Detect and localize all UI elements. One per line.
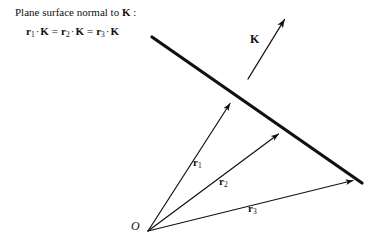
normal-vector-label-text: K [250,32,259,46]
equation-K-2: K [75,25,84,37]
vector-label-r3-subscript: 3 [253,207,257,216]
vector-label-r2: r2 [219,176,228,188]
equation-K-1: K [40,25,49,37]
equation-equals-2: = [84,25,96,37]
vector-label-r2-subscript: 2 [224,180,228,189]
caption-equation: r1·K=r2·K=r3·K [26,26,119,38]
plane-normal-vector-diagram: Plane surface normal to K : r1·K=r2·K=r3… [0,0,379,247]
caption-text-suffix: : [130,6,136,18]
vector-r1-arrow [148,104,230,232]
normal-vector-label-K: K [250,33,259,45]
caption-text-prefix: Plane surface normal to [15,6,122,18]
caption-line-1: Plane surface normal to K : [15,7,136,18]
vector-label-r1-subscript: 1 [198,161,202,170]
normal-vector-K-arrow [248,20,285,80]
vector-label-r3: r3 [248,203,257,215]
vector-label-r1: r1 [193,157,202,169]
origin-label-text: O [131,219,140,233]
vector-r2-arrow [148,134,279,231]
equation-K-3: K [110,25,119,37]
origin-label: O [131,220,140,232]
plane-surface-line [152,37,362,183]
equation-equals-1: = [49,25,61,37]
